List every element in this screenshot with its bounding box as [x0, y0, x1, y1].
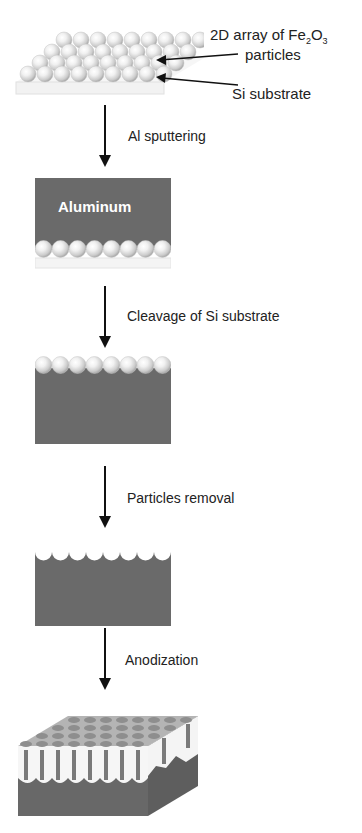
label-pointer-arrows — [150, 40, 240, 100]
process-arrow — [104, 466, 106, 516]
process-arrow — [104, 105, 106, 155]
label-text: O — [311, 26, 323, 43]
step-label-particles-removal: Particles removal — [127, 490, 234, 506]
porous-anodic-alumina — [16, 706, 202, 818]
step-label-al-sputtering: Al sputtering — [128, 128, 206, 144]
particles-label: particles — [245, 46, 301, 63]
dimpled-aluminum — [35, 544, 171, 626]
particle-array-label: 2D array of Fe2O3 — [210, 26, 328, 46]
si-substrate-label: Si substrate — [232, 85, 311, 102]
particle-row — [35, 354, 171, 376]
aluminum-label: Aluminum — [58, 198, 131, 215]
aluminum-layer — [35, 368, 171, 444]
particle-row — [35, 236, 171, 270]
label-text: 2D array of Fe — [210, 26, 306, 43]
arrowhead-icon — [99, 678, 111, 690]
process-arrow — [104, 628, 106, 678]
step-label-anodization: Anodization — [125, 652, 198, 668]
step-label-cleavage: Cleavage of Si substrate — [127, 308, 280, 324]
subscript: 3 — [323, 36, 328, 46]
arrowhead-icon — [99, 516, 111, 528]
arrowhead-icon — [99, 336, 111, 348]
arrowhead-icon — [99, 155, 111, 167]
process-arrow — [104, 286, 106, 336]
